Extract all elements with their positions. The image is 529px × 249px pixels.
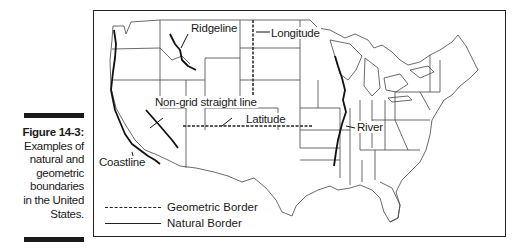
legend-natural: Natural Border	[105, 217, 242, 229]
dashed-line-swatch	[105, 207, 161, 208]
label-coastline: Coastline	[98, 156, 146, 168]
coastline-border	[111, 30, 160, 164]
label-river: River	[356, 121, 384, 133]
label-longitude: Longitude	[270, 27, 321, 39]
legend-label: Natural Border	[167, 217, 242, 229]
label-non-grid-line: Non-grid straight line	[154, 96, 258, 108]
label-latitude: Latitude	[245, 113, 286, 125]
legend-geometric: Geometric Border	[105, 201, 258, 213]
us-outline	[110, 20, 478, 222]
non-grid-border	[146, 110, 178, 148]
solid-line-swatch	[105, 223, 161, 224]
label-ridgeline: Ridgeline	[190, 22, 238, 34]
legend-label: Geometric Border	[167, 201, 258, 213]
ridgeline-border	[170, 34, 196, 70]
